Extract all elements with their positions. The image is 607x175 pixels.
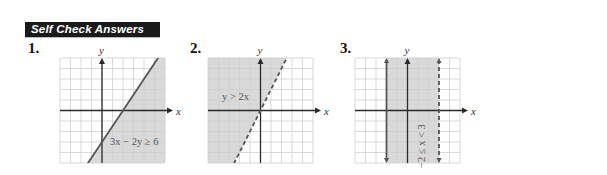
y-axis-label: y	[404, 44, 410, 56]
x-axis-label: x	[175, 105, 181, 117]
header-rule	[25, 37, 160, 38]
problem-number-2: 2.	[190, 40, 201, 57]
y-axis-arrow	[99, 58, 105, 64]
graph-2: y > 2x x y	[208, 40, 328, 175]
graph-1: 3x − 2y ≥ 6 x y	[60, 40, 180, 175]
problem-number-1: 1.	[28, 40, 39, 57]
x-axis-label: x	[470, 105, 476, 117]
problem-number-3: 3.	[340, 40, 351, 57]
x-axis-arrow	[462, 108, 468, 114]
x-axis-arrow	[167, 108, 173, 114]
x-axis-arrow	[315, 108, 321, 114]
y-axis-label: y	[257, 44, 263, 56]
y-axis-label: y	[98, 44, 104, 56]
graph-3: −2 ≤ x < 3 x y	[355, 40, 475, 175]
section-header: Self Check Answers	[25, 22, 160, 37]
section-title: Self Check Answers	[31, 23, 144, 35]
inequality-label: −2 ≤ x < 3	[416, 124, 427, 168]
inequality-label: 3x − 2y ≥ 6	[110, 136, 158, 147]
inequality-label: y > 2x	[222, 91, 250, 102]
x-axis-label: x	[323, 105, 329, 117]
